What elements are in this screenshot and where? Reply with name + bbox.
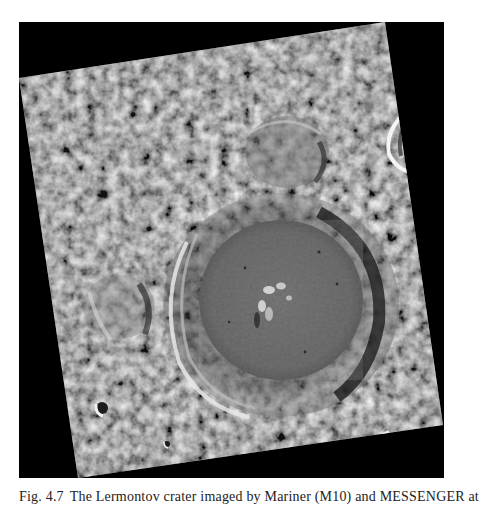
figure-label: Fig. 4.7 — [19, 489, 64, 504]
surface-region — [19, 22, 444, 478]
main-crater — [163, 193, 399, 417]
caption-text: The Lermontov crater imaged by Mariner (… — [70, 489, 479, 504]
crater-surface-figure — [19, 22, 444, 478]
crater-surface-image — [19, 22, 444, 478]
upper-crater — [245, 116, 329, 188]
figure-caption: Fig. 4.7The Lermontov crater imaged by M… — [19, 489, 449, 505]
